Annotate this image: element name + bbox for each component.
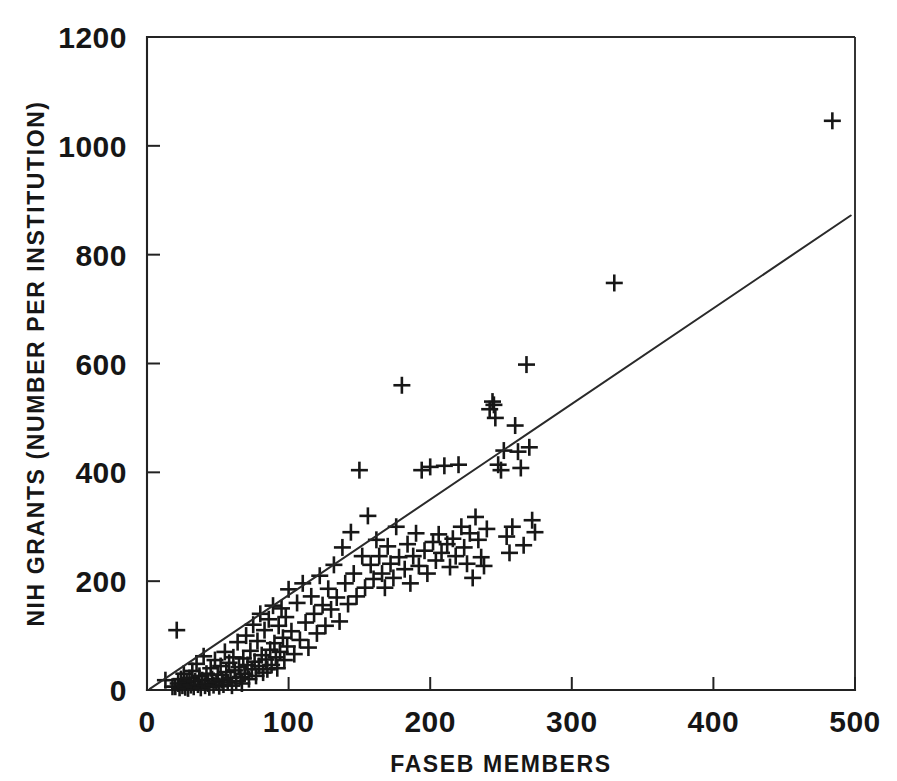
data-point bbox=[273, 600, 290, 617]
data-point bbox=[362, 556, 379, 573]
data-point bbox=[467, 508, 484, 525]
data-point bbox=[345, 565, 362, 582]
data-point bbox=[521, 439, 538, 456]
y-tick-label-200: 200 bbox=[75, 565, 127, 598]
data-point bbox=[331, 613, 348, 630]
data-point bbox=[509, 443, 526, 460]
data-point bbox=[385, 569, 402, 586]
data-points-group bbox=[157, 112, 841, 697]
data-point bbox=[824, 112, 841, 129]
data-point bbox=[314, 597, 331, 614]
x-tick-label-0: 0 bbox=[138, 705, 155, 738]
y-tick-label-1200: 1200 bbox=[58, 21, 127, 54]
x-tick-label-200: 200 bbox=[404, 705, 456, 738]
regression-line bbox=[150, 215, 851, 688]
data-point bbox=[408, 525, 425, 542]
chart-figure: 0100200300400500020040060080010001200FAS… bbox=[0, 0, 897, 781]
y-tick-label-1000: 1000 bbox=[58, 130, 127, 163]
data-point bbox=[484, 393, 501, 410]
scatter-plot: 0100200300400500020040060080010001200FAS… bbox=[0, 0, 897, 781]
data-point bbox=[348, 588, 365, 605]
data-point bbox=[342, 524, 359, 541]
data-point bbox=[512, 459, 529, 476]
data-point bbox=[507, 417, 524, 434]
x-tick-label-400: 400 bbox=[688, 705, 740, 738]
data-point bbox=[518, 356, 535, 373]
data-point bbox=[320, 580, 337, 597]
data-point bbox=[359, 507, 376, 524]
data-point bbox=[606, 274, 623, 291]
data-point bbox=[337, 575, 354, 592]
data-point bbox=[450, 456, 467, 473]
data-point bbox=[317, 617, 334, 634]
data-point bbox=[393, 377, 410, 394]
data-point bbox=[371, 548, 388, 565]
data-point bbox=[334, 539, 351, 556]
data-point bbox=[485, 396, 502, 413]
data-point bbox=[308, 625, 325, 642]
data-point bbox=[526, 524, 543, 541]
data-point bbox=[524, 512, 541, 529]
x-tick-label-100: 100 bbox=[263, 705, 315, 738]
y-tick-label-800: 800 bbox=[75, 239, 127, 272]
y-tick-label-0: 0 bbox=[110, 674, 127, 707]
data-point bbox=[515, 537, 532, 554]
y-axis-title: NIH GRANTS (NUMBER PER INSTITUTION) bbox=[23, 100, 49, 626]
data-point bbox=[413, 462, 430, 479]
data-point bbox=[501, 544, 518, 561]
data-point bbox=[357, 579, 374, 596]
data-point bbox=[168, 622, 185, 639]
x-tick-label-300: 300 bbox=[546, 705, 598, 738]
data-point bbox=[419, 565, 436, 582]
y-tick-label-400: 400 bbox=[75, 456, 127, 489]
y-tick-label-600: 600 bbox=[75, 348, 127, 381]
x-tick-label-500: 500 bbox=[829, 705, 881, 738]
data-point bbox=[297, 614, 314, 631]
data-point bbox=[478, 520, 495, 537]
data-point bbox=[351, 462, 368, 479]
data-point bbox=[476, 557, 493, 574]
x-axis-title: FASEB MEMBERS bbox=[390, 751, 611, 777]
data-point bbox=[376, 579, 393, 596]
data-point bbox=[306, 605, 323, 622]
